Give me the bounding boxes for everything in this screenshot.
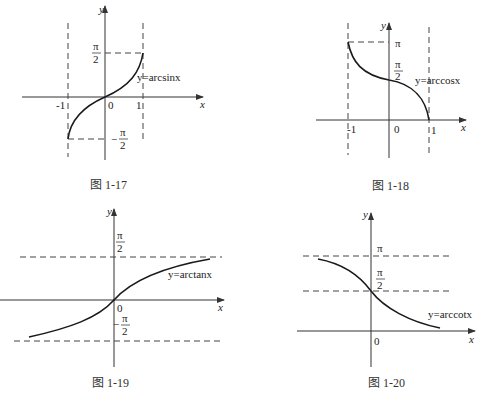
tick-0: 0: [394, 123, 400, 135]
function-label-arccot: y=arccotx: [428, 308, 473, 320]
tick-1: 1: [136, 99, 142, 111]
caption-1-18: 图 1-18: [372, 179, 409, 193]
tick-pi-half: π 2: [92, 40, 101, 65]
function-label-arctan: y=arctanx: [168, 268, 213, 280]
x-axis-label: x: [199, 98, 205, 110]
y-axis-label: y: [106, 205, 112, 217]
svg-text:2: 2: [395, 70, 401, 82]
tick-neg1: -1: [347, 123, 356, 135]
y-axis-label: y: [98, 3, 104, 15]
figure-1-18: y x -1 0 1 π π 2 y=arccosx 图 1-18: [316, 19, 466, 193]
x-axis-label: x: [217, 301, 223, 313]
caption-1-20: 图 1-20: [368, 376, 405, 390]
svg-text:2: 2: [377, 279, 383, 291]
svg-text:2: 2: [93, 53, 99, 65]
tick-1: 1: [431, 124, 437, 136]
figure-1-17: y x -1 0 1 π 2 − π 2 y=arcsinx 图 1-17: [22, 3, 205, 192]
figure-canvas: y x -1 0 1 π 2 − π 2 y=arcsinx 图 1-17 y …: [0, 0, 485, 410]
tick-pi-half: π 2: [376, 266, 385, 291]
function-label-arcsin: y=arcsinx: [137, 71, 181, 83]
function-label-arccos: y=arccosx: [415, 74, 461, 86]
caption-1-19: 图 1-19: [92, 376, 129, 390]
svg-text:−: −: [113, 318, 119, 330]
y-axis-label: y: [362, 208, 368, 220]
svg-text:π: π: [122, 312, 128, 324]
svg-text:π: π: [377, 266, 383, 278]
x-axis-label: x: [468, 333, 474, 345]
figure-1-20: y x 0 π π 2 y=arccotx 图 1-20: [297, 208, 475, 390]
caption-1-17: 图 1-17: [90, 178, 127, 192]
tick-neg-pi-half: − π 2: [113, 312, 130, 337]
svg-text:π: π: [117, 229, 123, 241]
tick-0: 0: [374, 335, 380, 347]
svg-text:π: π: [93, 40, 99, 52]
svg-text:π: π: [395, 58, 401, 70]
svg-text:2: 2: [122, 325, 128, 337]
svg-text:2: 2: [117, 242, 123, 254]
tick-0: 0: [108, 99, 114, 111]
tick-pi-half: π 2: [116, 229, 125, 254]
figure-1-19: y x 0 π 2 − π 2 y=arctanx 图 1-19: [0, 205, 224, 390]
tick-neg1: -1: [56, 99, 65, 111]
y-axis-label: y: [380, 19, 386, 31]
x-axis-label: x: [460, 121, 466, 133]
tick-pi: π: [395, 37, 401, 49]
tick-pi-half: π 2: [394, 58, 403, 82]
svg-text:π: π: [120, 126, 126, 138]
svg-text:2: 2: [120, 139, 126, 151]
svg-text:−: −: [111, 133, 117, 145]
tick-pi: π: [377, 242, 383, 254]
tick-neg-pi-half: − π 2: [111, 126, 128, 151]
